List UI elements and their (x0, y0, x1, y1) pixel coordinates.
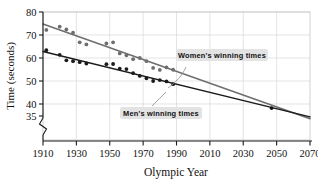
womens-label-text: Women's winning times (178, 51, 266, 60)
x-axis: 191019301950197019902010203020502070 Oly… (33, 141, 319, 179)
data-point (125, 53, 129, 57)
data-point (64, 28, 68, 32)
data-point (44, 48, 48, 52)
x-tick-label: 1970 (133, 148, 154, 159)
x-tick-label: 2070 (300, 148, 319, 159)
data-point (84, 62, 88, 66)
x-tick-label: 1910 (33, 148, 54, 159)
intersection-dot (270, 106, 274, 110)
y-tick-label: 50 (26, 76, 37, 87)
data-point (118, 52, 122, 56)
data-point (151, 79, 155, 83)
x-axis-ticks: 191019301950197019902010203020502070 (33, 141, 319, 159)
data-point (105, 42, 109, 46)
x-axis-title: Olympic Year (144, 166, 208, 179)
data-point (111, 62, 115, 66)
data-point (58, 53, 62, 57)
data-point (105, 62, 109, 66)
data-point (171, 68, 175, 72)
y-tick-label: 80 (26, 7, 37, 18)
data-point (158, 68, 162, 72)
y-axis-ticks: 807060504035 (26, 7, 43, 122)
data-point (158, 78, 162, 82)
data-point (111, 40, 115, 44)
data-point (64, 58, 68, 62)
data-point (78, 40, 82, 44)
data-point (145, 59, 149, 63)
data-point (118, 67, 122, 71)
data-point (138, 56, 142, 60)
data-point (84, 43, 88, 47)
y-tick-label: 35 (26, 111, 37, 122)
data-point (131, 71, 135, 75)
chart-figure: 807060504035 Time (seconds) 191019301950… (0, 0, 318, 182)
x-tick-label: 2030 (233, 148, 254, 159)
data-point (71, 59, 75, 63)
data-point (151, 66, 155, 70)
data-point (44, 28, 48, 32)
y-tick-label: 70 (26, 30, 37, 41)
x-tick-label: 1930 (66, 148, 87, 159)
data-point (71, 31, 75, 35)
plot-grid (43, 12, 310, 140)
x-tick-label: 1990 (166, 148, 187, 159)
data-point (145, 76, 149, 80)
data-point (58, 25, 62, 29)
olympic-times-scatter-chart: 807060504035 Time (seconds) 191019301950… (0, 0, 318, 182)
y-axis-title: Time (seconds) (4, 42, 17, 110)
y-tick-label: 40 (26, 99, 37, 110)
y-axis: 807060504035 Time (seconds) (4, 7, 47, 141)
intersection-point (270, 106, 274, 110)
data-point (138, 74, 142, 78)
data-point (131, 57, 135, 61)
x-tick-label: 2050 (266, 148, 287, 159)
data-point (78, 60, 82, 64)
y-tick-label: 60 (26, 53, 37, 64)
x-tick-label: 1950 (99, 148, 120, 159)
mens-label-text: Men's winning times (123, 109, 199, 118)
data-point (125, 67, 129, 71)
x-tick-label: 2010 (199, 148, 220, 159)
data-point (165, 66, 169, 70)
data-point (165, 80, 169, 84)
